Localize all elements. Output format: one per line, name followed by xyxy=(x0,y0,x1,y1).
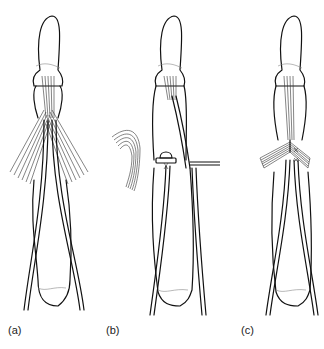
panel-label-b: (b) xyxy=(106,324,119,336)
finger-illustration-a xyxy=(0,0,110,349)
finger-illustration-c xyxy=(214,0,324,349)
panel-c: (c) xyxy=(214,0,324,349)
panel-b: (b) xyxy=(110,0,220,349)
anatomical-figure: (a) xyxy=(0,0,324,349)
finger-illustration-b xyxy=(110,0,220,349)
panel-label-c: (c) xyxy=(241,324,254,336)
panel-a: (a) xyxy=(0,0,110,349)
panel-label-a: (a) xyxy=(8,324,21,336)
